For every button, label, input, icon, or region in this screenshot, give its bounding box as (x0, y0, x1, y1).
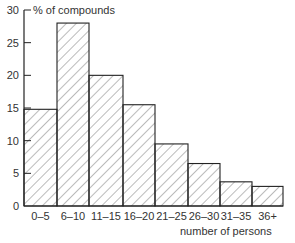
bar-3 (123, 105, 155, 206)
x-tick-label: 26–30 (189, 210, 220, 222)
x-tick-label: 36+ (258, 210, 277, 222)
x-tick-label: 6–10 (61, 210, 85, 222)
y-tick-label: 0 (13, 200, 19, 212)
bar-0 (24, 109, 57, 206)
bar-4 (155, 144, 188, 206)
y-tick-label: 15 (7, 102, 19, 114)
y-tick-label: 10 (7, 135, 19, 147)
bar-1 (57, 23, 89, 206)
x-tick-label: 31–35 (221, 210, 252, 222)
bar-2 (89, 75, 123, 206)
y-axis-label: % of compounds (33, 4, 115, 16)
bars-group (24, 23, 283, 206)
x-tick-labels: 0–56–1011–1516–2021–2526–3031–3536+ (31, 210, 277, 222)
histogram-chart: 051015202530 0–56–1011–1516–2021–2526–30… (0, 0, 295, 243)
y-tick-label: 20 (7, 69, 19, 81)
bar-5 (188, 164, 220, 206)
bar-6 (220, 182, 252, 206)
y-tick-label: 5 (13, 167, 19, 179)
x-tick-label: 0–5 (31, 210, 49, 222)
x-axis-label: number of persons (180, 225, 272, 237)
x-tick-label: 11–15 (91, 210, 121, 222)
y-tick-label: 30 (7, 4, 19, 16)
x-tick-label: 16–20 (124, 210, 155, 222)
x-tick-label: 21–25 (156, 210, 187, 222)
bar-7 (252, 186, 283, 206)
y-tick-label: 25 (7, 37, 19, 49)
